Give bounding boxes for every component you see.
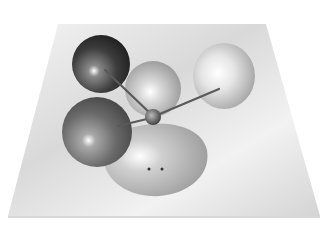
molecule-diagram bbox=[0, 0, 334, 233]
atom-light bbox=[193, 43, 255, 109]
atom-mid bbox=[62, 97, 132, 167]
lone-pair-dot bbox=[161, 168, 164, 171]
lone-pair-dot bbox=[148, 168, 151, 171]
central-atom bbox=[145, 109, 161, 125]
